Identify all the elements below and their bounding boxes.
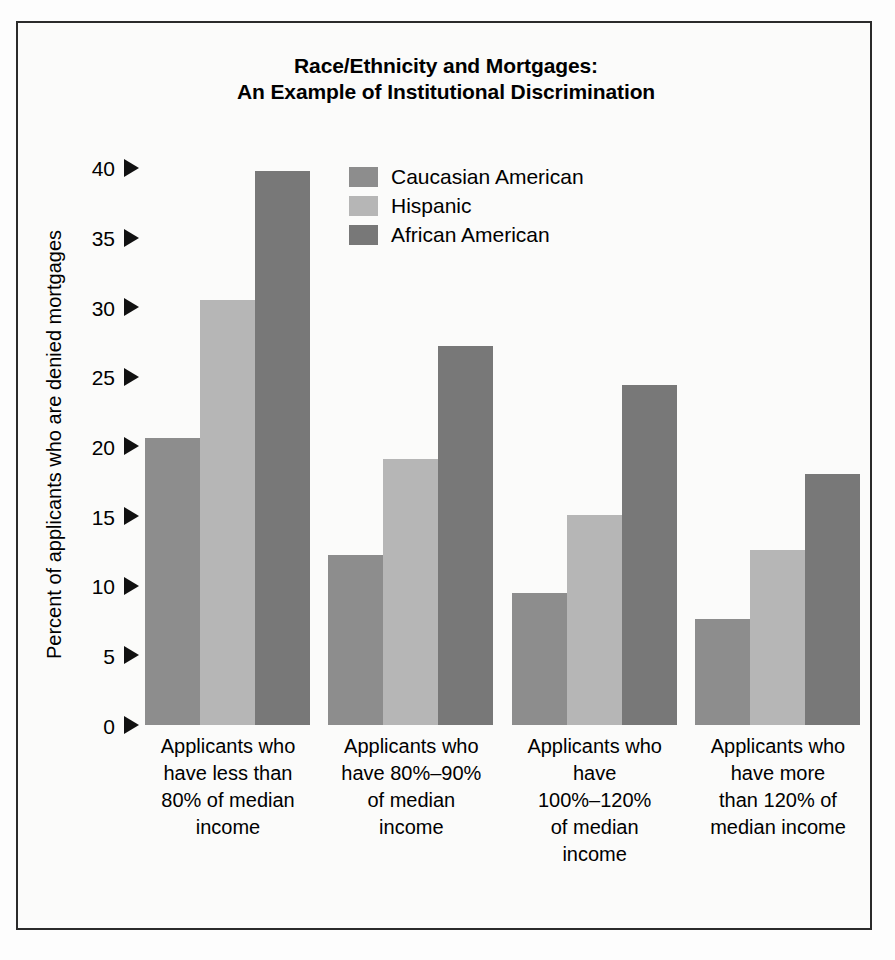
chart-title: Race/Ethnicity and Mortgages: An Example… xyxy=(18,53,874,105)
y-axis-tick-triangle-icon xyxy=(124,646,139,664)
y-axis-tick-label: 30 xyxy=(92,298,115,319)
y-axis-tick-triangle-icon xyxy=(124,716,139,734)
y-axis-tick-label: 10 xyxy=(92,576,115,597)
legend-label: Hispanic xyxy=(391,194,472,218)
bar xyxy=(255,171,310,725)
bar xyxy=(567,515,622,725)
x-axis-category-label-line: Applicants who xyxy=(323,733,499,760)
bar xyxy=(695,619,750,725)
bar xyxy=(200,300,255,725)
y-axis-tick-label: 5 xyxy=(103,646,115,667)
x-axis-category-label-line: Applicants who xyxy=(690,733,866,760)
legend-swatch xyxy=(349,167,378,187)
x-axis-category-label-line: income xyxy=(323,814,499,841)
bar xyxy=(383,459,438,725)
x-axis-category-label-line: Applicants who xyxy=(140,733,316,760)
y-axis-tick-label: 25 xyxy=(92,367,115,388)
chart-page: Race/Ethnicity and Mortgages: An Example… xyxy=(0,0,895,960)
x-axis-category-label: Applicants whohave100%–120%of medianinco… xyxy=(507,733,683,868)
x-axis-category-label-line: Applicants who xyxy=(507,733,683,760)
x-axis-category-label-line: than 120% of xyxy=(690,787,866,814)
y-axis-tick-triangle-icon xyxy=(124,159,139,177)
y-axis-tick-label: 40 xyxy=(92,158,115,179)
y-axis-tick-triangle-icon xyxy=(124,229,139,247)
x-axis-category-label-line: have less than xyxy=(140,760,316,787)
x-axis-category-label-line: of median xyxy=(323,787,499,814)
legend: Caucasian AmericanHispanicAfrican Americ… xyxy=(349,162,584,249)
chart-title-line-2: An Example of Institutional Discriminati… xyxy=(18,79,874,105)
y-axis-tick-label: 0 xyxy=(103,716,115,737)
chart-title-line-1: Race/Ethnicity and Mortgages: xyxy=(18,53,874,79)
legend-swatch xyxy=(349,225,378,245)
legend-label: Caucasian American xyxy=(391,165,584,189)
bar xyxy=(145,438,200,725)
legend-item: African American xyxy=(349,220,584,249)
x-axis-category-label-line: have 80%–90% xyxy=(323,760,499,787)
x-axis-category-label: Applicants whohave less than80% of media… xyxy=(140,733,316,868)
y-axis-tick-triangle-icon xyxy=(124,368,139,386)
x-axis-category-label: Applicants whohave 80%–90%of medianincom… xyxy=(323,733,499,868)
legend-swatch xyxy=(349,196,378,216)
x-axis-category-label-line: income xyxy=(507,841,683,868)
bar xyxy=(622,385,677,725)
x-axis-labels: Applicants whohave less than80% of media… xyxy=(145,733,861,868)
y-axis-tick-triangle-icon xyxy=(124,437,139,455)
x-axis-category-label: Applicants whohave morethan 120% ofmedia… xyxy=(690,733,866,868)
legend-item: Caucasian American xyxy=(349,162,584,191)
bar-group xyxy=(695,147,861,725)
x-axis-category-label-line: income xyxy=(140,814,316,841)
legend-item: Hispanic xyxy=(349,191,584,220)
legend-label: African American xyxy=(391,223,550,247)
bar xyxy=(328,555,383,725)
x-axis-category-label-line: have xyxy=(507,760,683,787)
y-axis-tick-label: 35 xyxy=(92,228,115,249)
y-axis-tick-label: 20 xyxy=(92,437,115,458)
y-axis-tick-label: 15 xyxy=(92,507,115,528)
y-axis-title: Percent of applicants who are denied mor… xyxy=(43,165,66,725)
x-axis-category-label-line: 100%–120% xyxy=(507,787,683,814)
y-axis-tick-triangle-icon xyxy=(124,298,139,316)
x-axis-category-label-line: 80% of median xyxy=(140,787,316,814)
x-axis-category-label-line: of median xyxy=(507,814,683,841)
bar xyxy=(750,550,805,725)
bar xyxy=(805,474,860,725)
chart-frame: Race/Ethnicity and Mortgages: An Example… xyxy=(16,21,872,930)
bar-group xyxy=(145,147,311,725)
x-axis-category-label-line: median income xyxy=(690,814,866,841)
x-axis-category-label-line: have more xyxy=(690,760,866,787)
y-axis-tick-triangle-icon xyxy=(124,507,139,525)
y-axis-tick-triangle-icon xyxy=(124,577,139,595)
bar xyxy=(512,593,567,725)
bar xyxy=(438,346,493,725)
